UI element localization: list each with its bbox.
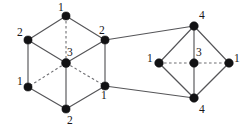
graph-vertex-L-bottom xyxy=(62,105,70,113)
vertex-label-R-center: 3 xyxy=(196,46,202,58)
graph-edge-R-left-to-R-bottom xyxy=(159,63,194,98)
upper-connector-L-upper-right-to-R-top xyxy=(105,26,194,40)
vertex-label-R-top: 4 xyxy=(199,9,205,21)
graph-edge-R-top-to-R-left xyxy=(159,26,194,63)
graph-edge-L-center-to-L-lower-left xyxy=(28,63,66,87)
graph-edge-R-right-to-R-bottom xyxy=(194,63,229,98)
graph-vertex-L-lower-left xyxy=(24,83,32,91)
lower-connector-L-lower-right-to-R-bottom xyxy=(105,86,194,98)
vertex-label-L-lower-right: 1 xyxy=(101,89,107,101)
vertex-label-R-left: 1 xyxy=(147,52,153,64)
graph-edge-L-upper-left-to-L-center xyxy=(28,40,66,63)
vertex-label-R-right: 1 xyxy=(234,52,240,64)
graph-figure: 122311241314 xyxy=(0,0,249,130)
graph-vertex-R-center xyxy=(190,59,199,68)
vertex-label-L-bottom: 2 xyxy=(67,114,73,126)
graph-vertex-L-top xyxy=(62,12,70,20)
vertex-label-L-top: 1 xyxy=(58,1,64,13)
graph-vertex-R-bottom xyxy=(190,94,199,103)
vertex-label-L-center: 3 xyxy=(67,46,73,58)
graph-edge-L-center-to-L-lower-right xyxy=(66,63,105,86)
vertex-label-L-upper-right: 2 xyxy=(99,24,105,36)
vertex-label-L-lower-left: 1 xyxy=(17,75,23,87)
edges-layer xyxy=(28,16,229,109)
graph-vertex-R-top xyxy=(190,22,199,31)
graph-vertex-L-center xyxy=(62,59,71,68)
vertex-label-L-upper-left: 2 xyxy=(17,26,23,38)
vertices-layer xyxy=(24,12,233,113)
graph-edge-L-lower-right-to-L-bottom xyxy=(66,86,105,109)
graph-canvas: 122311241314 xyxy=(0,0,249,130)
graph-vertex-R-left xyxy=(155,59,164,68)
graph-vertex-L-upper-right xyxy=(101,36,109,44)
graph-vertex-L-upper-left xyxy=(24,36,32,44)
vertex-label-R-bottom: 4 xyxy=(199,103,205,115)
graph-edge-L-top-to-L-upper-left xyxy=(28,16,66,40)
graph-edge-L-lower-left-to-L-bottom xyxy=(28,87,66,109)
graph-vertex-R-right xyxy=(225,59,234,68)
